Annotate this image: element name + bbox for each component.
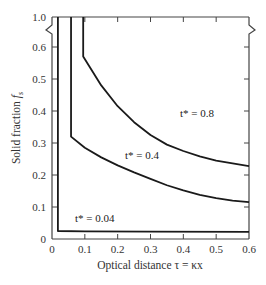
curve-label-0.04: t* = 0.04 — [75, 212, 115, 224]
x-tick-label: 0.2 — [111, 243, 125, 255]
curve-0.8 — [83, 17, 249, 166]
axis-ticks: 00.10.20.30.40.50.600.10.20.30.40.50.61.… — [32, 11, 256, 255]
y-tick-label: 0.2 — [32, 169, 46, 181]
x-axis-label: Optical distance τ = κx — [97, 259, 203, 272]
y-tick-label: 0.5 — [32, 73, 46, 85]
y-tick-label: 0.6 — [32, 41, 46, 53]
x-tick-label: 0.6 — [242, 243, 256, 255]
y-tick-label: 0.1 — [32, 201, 46, 213]
x-tick-label: 0.5 — [209, 243, 223, 255]
x-tick-label: 0.4 — [176, 243, 190, 255]
curves — [58, 17, 249, 232]
x-tick-label: 0.3 — [144, 243, 158, 255]
y-tick-label: 0 — [41, 233, 47, 245]
y-tick-label: 0.3 — [32, 137, 46, 149]
curve-label-0.8: t* = 0.8 — [180, 107, 215, 119]
chart: 00.10.20.30.40.50.600.10.20.30.40.50.61.… — [0, 0, 266, 285]
y-axis-label: Solid fraction fs — [10, 92, 25, 164]
x-tick-label: 0.1 — [78, 243, 92, 255]
plot-frame — [46, 17, 255, 239]
x-tick-label: 0 — [49, 243, 55, 255]
y-tick-label: 1.0 — [32, 11, 46, 23]
curve-label-0.4: t* = 0.4 — [125, 149, 160, 161]
curve-0.4 — [71, 17, 249, 202]
curve-0.04 — [58, 17, 249, 232]
y-tick-label: 0.4 — [32, 105, 46, 117]
